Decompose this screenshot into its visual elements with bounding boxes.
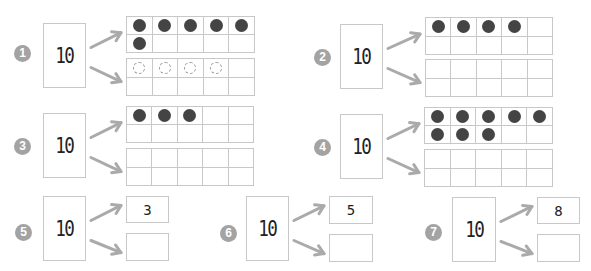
- part-box-top: 8: [537, 197, 580, 224]
- branch-arrows-icon: [0, 0, 591, 271]
- part-box-bottom-answer[interactable]: [537, 234, 580, 262]
